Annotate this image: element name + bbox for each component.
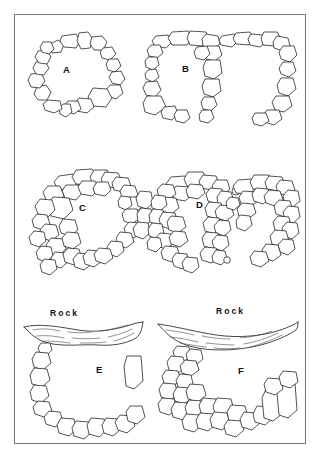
stone-structure-figure: A	[0, 0, 316, 458]
panel-e-rock-overhang	[24, 322, 143, 345]
panel-label-f: F	[238, 365, 244, 376]
panel-label-b: B	[182, 63, 189, 74]
figure-root: A	[0, 0, 316, 458]
rock-label-f: Rock	[216, 306, 245, 316]
panel-label-e: E	[96, 364, 103, 375]
panel-a: A	[28, 32, 125, 117]
panel-c: C	[29, 169, 153, 275]
panel-f: Rock	[158, 306, 298, 437]
rock-label-e: Rock	[50, 308, 79, 318]
panel-f-stones	[158, 346, 298, 437]
panel-d: D	[147, 172, 300, 273]
panel-d-stones	[147, 172, 300, 273]
panel-e-stones	[30, 343, 145, 439]
panel-b-stones	[143, 31, 297, 126]
panel-c-stones	[29, 169, 153, 275]
panel-label-c: C	[79, 202, 86, 213]
panel-a-stones	[28, 32, 125, 117]
panel-b: B	[143, 31, 297, 126]
panel-e: Rock	[24, 308, 145, 439]
panel-f-rock-overhang	[158, 322, 298, 350]
panel-label-d: D	[196, 199, 203, 210]
panel-label-a: A	[63, 64, 70, 75]
